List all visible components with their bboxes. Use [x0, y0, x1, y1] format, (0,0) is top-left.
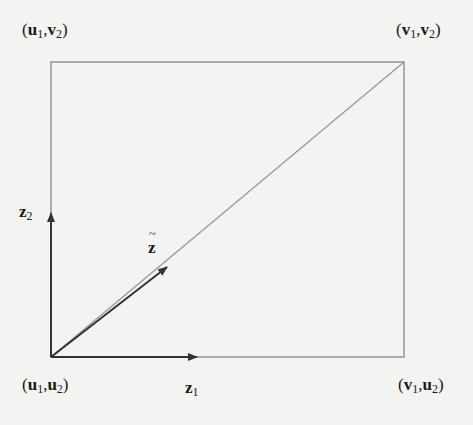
diagonal-line [51, 62, 404, 357]
var: z [148, 238, 156, 258]
subscript: 1 [193, 385, 199, 399]
var: v [420, 20, 429, 39]
corner-label-bottom-right: (v1,u2) [398, 375, 444, 397]
vector-label-z-tilde: z [148, 238, 156, 258]
paren-close: ) [438, 375, 444, 394]
var: z [19, 202, 27, 221]
paren-close: ) [63, 375, 69, 394]
var: v [402, 20, 411, 39]
vector-label-z2: z2 [19, 202, 33, 224]
var: u [28, 375, 37, 394]
var: u [422, 375, 431, 394]
var: u [28, 20, 37, 39]
z-tilde-arrow [51, 267, 167, 357]
corner-label-top-left: (u1,v2) [22, 20, 68, 42]
corner-label-top-right: (v1,v2) [396, 20, 441, 42]
diagram-canvas [0, 0, 473, 425]
var: v [47, 20, 56, 39]
vector-label-z1: z1 [185, 378, 199, 400]
paren-close: ) [435, 20, 441, 39]
subscript: 2 [27, 209, 33, 223]
var: u [47, 375, 56, 394]
corner-label-bottom-left: (u1,u2) [22, 375, 69, 397]
paren-close: ) [62, 20, 68, 39]
var: v [404, 375, 413, 394]
var: z [185, 378, 193, 397]
